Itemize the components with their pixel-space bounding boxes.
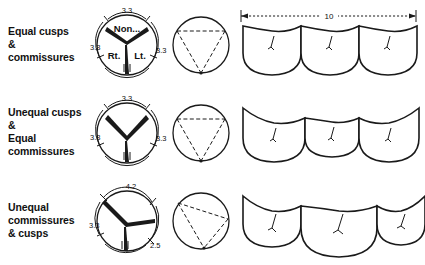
sector-label-right: Rt. bbox=[108, 50, 121, 61]
arc-dimension-left: 3.3 bbox=[90, 43, 100, 52]
diagram-row: Unequal cusps & Equal commissures bbox=[0, 88, 425, 176]
figure-root: Equal cusps & commissures 3.3 bbox=[0, 0, 425, 265]
arc-dimension-right: 3.3 bbox=[156, 46, 166, 55]
arc-dimension-right: 2.5 bbox=[150, 241, 160, 250]
cusp-profile-diagram: 10 bbox=[232, 0, 425, 88]
cross-section-diagram: 3.3 3.3 3.3 bbox=[86, 88, 168, 176]
diagram-row: Equal cusps & commissures 3.3 bbox=[0, 0, 425, 88]
triangle-diagram bbox=[166, 88, 236, 176]
arc-dimension-top: 3.3 bbox=[122, 6, 132, 15]
cross-section-diagram: 3.3 3.3 3.3 Non... Rt. Lt. bbox=[86, 0, 168, 88]
cusp-profile-diagram bbox=[232, 88, 425, 176]
arc-dimension-left: 3.3 bbox=[90, 133, 100, 142]
cusp-profile-diagram bbox=[232, 176, 425, 264]
overall-dimension-label: 10 bbox=[325, 12, 334, 21]
triangle-diagram bbox=[166, 176, 236, 264]
arc-dimension-right: 3.3 bbox=[156, 134, 166, 143]
diagram-row: Unequal commissures & cusps 4.2 bbox=[0, 176, 425, 264]
arc-dimension-left: 3.3 bbox=[89, 221, 99, 230]
sector-label-left: Lt. bbox=[134, 50, 146, 61]
arc-dimension-top: 4.2 bbox=[126, 182, 136, 191]
sector-label-noncoronary: Non... bbox=[114, 23, 140, 34]
cross-section-diagram: 4.2 3.3 2.5 bbox=[86, 176, 168, 264]
triangle-diagram bbox=[166, 0, 236, 88]
arc-dimension-top: 3.3 bbox=[122, 94, 132, 103]
